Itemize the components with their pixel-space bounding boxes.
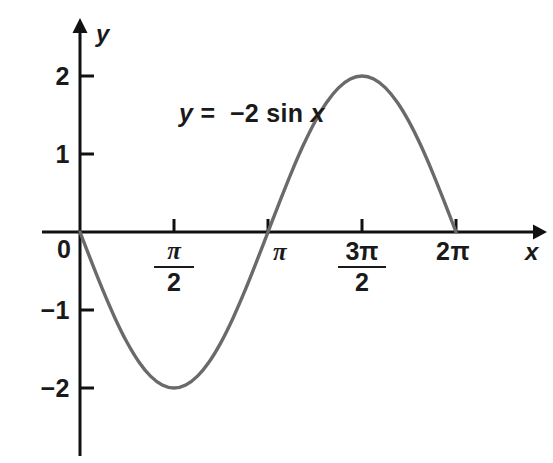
x-tick-denominator-2: 2 [154,269,194,295]
x-tick-numerator-3pi: 3π [338,238,386,264]
graph-figure: y x 0 2 1 −1 −2 π 2 π 3π 2 2π y = −2 sin… [0,0,553,463]
x-axis-ticks [174,219,456,232]
equation-coefficient: 2 [245,99,259,127]
x-axis [42,225,547,240]
x-tick-numerator-pi: π [154,238,194,264]
equation-variable: x [311,99,325,127]
y-axis-label: y [96,22,109,46]
origin-tick-label: 0 [57,237,71,262]
equation-annotation: y = −2 sin x [179,101,325,126]
y-axis [73,18,88,456]
y-tick-label-minus-2: −2 [20,376,70,401]
y-tick-label-1: 1 [40,142,70,167]
plot-canvas [0,0,553,463]
equation-minus-sign: − [230,99,245,127]
x-tick-label-pi-over-2: π 2 [154,238,194,296]
x-axis-label: x [525,240,538,264]
x-tick-label-pi: π [273,239,287,264]
equation-lhs: y [179,99,193,127]
equation-equals: = [200,99,215,127]
x-tick-label-2pi: 2π [436,239,470,264]
y-tick-label-2: 2 [40,64,70,89]
equation-function-name: sin [266,99,303,127]
x-tick-label-3pi-over-2: 3π 2 [338,238,386,296]
y-tick-label-minus-1: −1 [20,298,70,323]
x-tick-denominator-2: 2 [338,269,386,295]
